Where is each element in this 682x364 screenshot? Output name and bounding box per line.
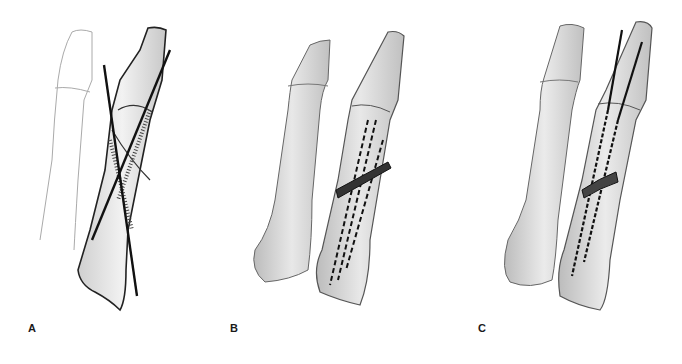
panel-label-c: C bbox=[478, 322, 486, 334]
panel-c: C bbox=[460, 0, 682, 364]
finger-illustration-b bbox=[220, 0, 460, 364]
panel-a: A bbox=[0, 0, 230, 364]
finger-illustration-a bbox=[0, 0, 230, 364]
panel-label-b: B bbox=[230, 322, 238, 334]
panel-b: B bbox=[220, 0, 460, 364]
finger-illustration-c bbox=[460, 0, 682, 364]
panel-label-a: A bbox=[28, 322, 36, 334]
